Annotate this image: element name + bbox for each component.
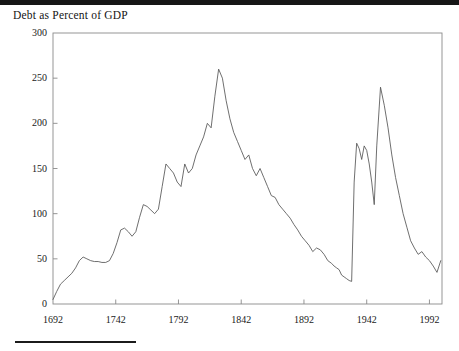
x-tick-label: 1892 xyxy=(279,314,329,325)
plot-frame xyxy=(53,33,442,304)
y-tick-label: 0 xyxy=(5,298,47,309)
y-tick-label: 50 xyxy=(5,253,47,264)
x-tick-label: 1792 xyxy=(153,314,203,325)
y-tick-label: 300 xyxy=(5,27,47,38)
y-tick-label: 100 xyxy=(5,208,47,219)
x-tick-label: 1992 xyxy=(404,314,454,325)
plot-border xyxy=(53,33,442,304)
data-series-line xyxy=(53,69,441,299)
x-tick-label: 1742 xyxy=(91,314,141,325)
footer-rule xyxy=(15,341,136,343)
x-tick-label: 1692 xyxy=(28,314,78,325)
y-tick-label: 150 xyxy=(5,163,47,174)
y-tick-label: 200 xyxy=(5,117,47,128)
x-tick-label: 1942 xyxy=(342,314,392,325)
y-tick-label: 250 xyxy=(5,72,47,83)
data-series-group xyxy=(53,69,441,299)
x-tick-label: 1842 xyxy=(216,314,266,325)
debt-to-gdp-line-chart xyxy=(0,0,459,351)
